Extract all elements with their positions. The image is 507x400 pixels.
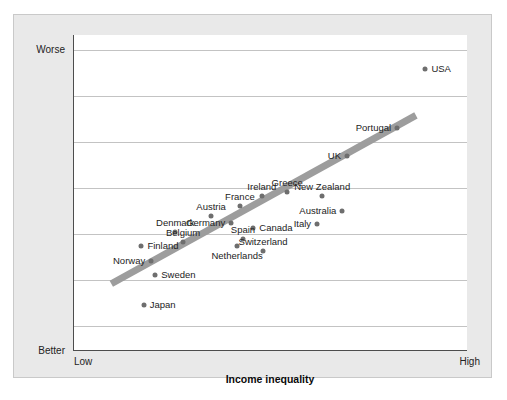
data-point-label: Ireland [247, 181, 276, 191]
x-axis-high-tick-label: High [459, 356, 480, 367]
data-point [149, 258, 154, 263]
data-point-label: Belgium [166, 228, 200, 238]
data-point-label: Portugal [356, 123, 391, 133]
data-point-label: Canada [259, 223, 292, 233]
y-axis-bottom-tick-label: Better [38, 345, 65, 356]
data-point [181, 240, 186, 245]
plot-area: USAPortugalUKGreeceNew ZealandIrelandFra… [73, 35, 467, 351]
gridline-5 [74, 280, 467, 281]
gridline-6 [74, 326, 467, 327]
data-point [395, 125, 400, 130]
data-point [285, 190, 290, 195]
data-point [141, 302, 146, 307]
data-point [345, 154, 350, 159]
data-point [320, 194, 325, 199]
gridline-1 [74, 96, 467, 97]
gridline-2 [74, 142, 467, 143]
trendline [74, 35, 467, 350]
data-point-label: Switzerland [239, 236, 288, 246]
gridline-0 [74, 50, 467, 51]
data-point-label: Netherlands [211, 251, 262, 261]
data-point [261, 248, 266, 253]
y-axis-top-tick-label: Worse [36, 44, 65, 55]
x-axis-low-tick-label: Low [74, 356, 92, 367]
data-point [423, 66, 428, 71]
chart-figure: Index of health and social problems Wors… [0, 0, 507, 400]
data-point-label: Australia [299, 206, 336, 216]
data-point-label: Japan [150, 300, 176, 310]
chart-panel: Index of health and social problems Wors… [13, 14, 492, 378]
data-point-label: Sweden [161, 270, 195, 280]
data-point [315, 221, 320, 226]
data-point-label: New Zealand [294, 182, 350, 192]
data-point-label: France [225, 192, 255, 202]
data-point-label: Austria [196, 202, 226, 212]
data-point [259, 193, 264, 198]
data-point [153, 272, 158, 277]
data-point-label: Denmark [156, 217, 195, 227]
data-point-label: Spain [231, 224, 255, 234]
data-point-label: UK [328, 151, 341, 161]
data-point-label: Italy [294, 219, 311, 229]
data-point-label: USA [431, 64, 451, 74]
data-point [139, 244, 144, 249]
data-point [237, 204, 242, 209]
data-point-label: Norway [113, 256, 145, 266]
x-axis-title: Income inequality [73, 373, 467, 385]
data-point [340, 209, 345, 214]
data-point-label: Finland [147, 241, 178, 251]
